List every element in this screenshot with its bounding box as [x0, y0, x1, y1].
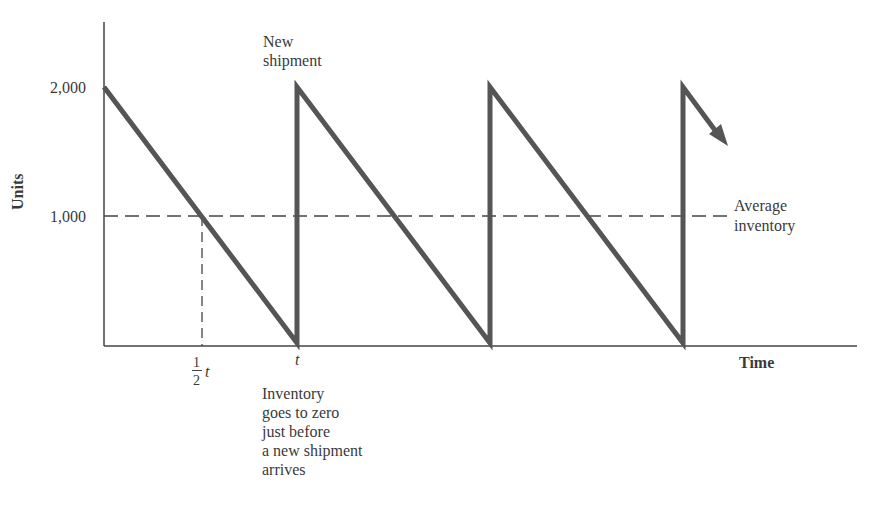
- average-label-line2: inventory: [734, 216, 795, 235]
- inventory-sawtooth: [104, 87, 720, 343]
- new-shipment-line1: New: [263, 32, 293, 51]
- x-axis-label: Time: [739, 353, 774, 372]
- tick-2000: 2,000: [50, 78, 86, 97]
- note-line3: just before: [262, 422, 330, 441]
- chart-canvas: [0, 0, 879, 507]
- tick-1000: 1,000: [50, 207, 86, 226]
- note-line2: goes to zero: [262, 403, 339, 422]
- note-line5: arrives: [262, 460, 306, 479]
- new-shipment-line2: shipment: [263, 51, 322, 70]
- y-axis-label: Units: [8, 174, 27, 210]
- t-label: t: [295, 350, 299, 369]
- note-line1: Inventory: [262, 384, 324, 403]
- half-t-label: t: [205, 362, 209, 381]
- average-label-line1: Average: [734, 196, 787, 215]
- half-t-denominator: 2: [193, 371, 200, 390]
- note-line4: a new shipment: [262, 441, 362, 460]
